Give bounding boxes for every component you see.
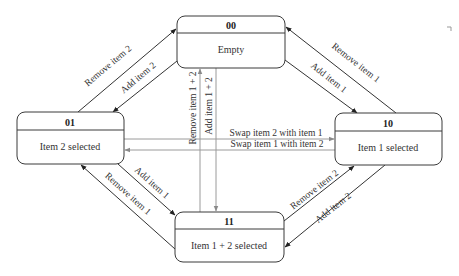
corner-mark — [447, 27, 451, 31]
state-11: 11 Item 1 + 2 selected — [175, 212, 284, 262]
edge-label: Add item 2 — [118, 60, 157, 95]
edge-label: Add item 1 — [309, 61, 349, 95]
state-id: 01 — [65, 117, 75, 128]
edge-label: Remove item 1 + 2 — [188, 71, 198, 144]
edge-10-to-01: Swap item 1 with item 2 — [125, 139, 335, 150]
state-id: 10 — [383, 118, 393, 129]
state-label: Item 1 + 2 selected — [191, 240, 267, 251]
edge-10-to-00: Remove item 1 — [286, 27, 396, 113]
edge-11-to-01: Remove item 1 — [81, 165, 175, 249]
edge-label: Add item 1 + 2 — [204, 77, 214, 135]
edge-label: Swap item 2 with item 1 — [229, 128, 322, 138]
edge-00-to-01: Add item 2 — [113, 60, 177, 112]
state-01: 01 Item 2 selected — [17, 112, 124, 164]
edge-label: Add item 2 — [313, 190, 353, 224]
state-id: 11 — [224, 216, 233, 227]
state-id: 00 — [226, 20, 236, 31]
edge-01-to-00: Remove item 2 — [78, 29, 176, 112]
edge-label: Swap item 1 with item 2 — [230, 139, 323, 149]
state-10: 10 Item 1 selected — [335, 113, 442, 165]
state-label: Empty — [218, 44, 245, 55]
edge-01-to-10: Swap item 2 with item 1 — [124, 128, 334, 139]
state-diagram: Remove item 2 Add item 2 Remove item 1 A… — [0, 0, 459, 276]
state-label: Item 2 selected — [40, 141, 101, 152]
state-00: 00 Empty — [177, 16, 285, 68]
state-label: Item 1 selected — [358, 142, 419, 153]
edge-11-to-00: Remove item 1 + 2 — [188, 69, 200, 212]
edge-00-to-10: Add item 1 — [285, 60, 357, 113]
